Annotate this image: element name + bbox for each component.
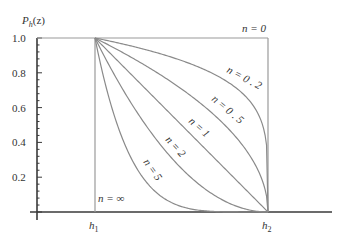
label-ninf: n = ∞ [98, 192, 124, 204]
xtick-label-h1: h1 [89, 219, 99, 234]
chart: Ph(z) 1.0 0.8 0.6 0.4 0.2 h1 h2 n = 0 n … [0, 0, 346, 237]
y-axis-label: Ph(z) [21, 14, 45, 29]
label-n0.5: n = 0 . 5 [210, 92, 247, 126]
ytick-label-0.2: 0.2 [12, 171, 26, 183]
label-n2: n = 2 [164, 133, 189, 159]
label-n5: n = 5 [141, 156, 165, 183]
label-n1: n = 1 [187, 115, 213, 140]
curves [95, 38, 268, 212]
curve-n-1 [95, 38, 268, 212]
xtick-label-h2: h2 [262, 219, 272, 234]
label-n0.2: n = 0 . 2 [225, 63, 264, 92]
ytick-label-1.0: 1.0 [12, 32, 26, 44]
label-n0: n = 0 [242, 22, 266, 34]
ytick-label-0.6: 0.6 [12, 102, 26, 114]
ytick-label-0.4: 0.4 [12, 136, 26, 148]
ytick-label-0.8: 0.8 [12, 67, 26, 79]
